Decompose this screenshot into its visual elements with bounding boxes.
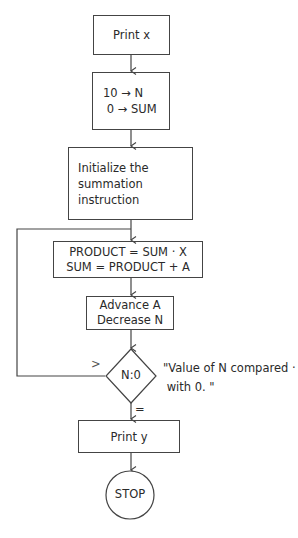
node-text: Advance A — [99, 298, 160, 313]
stop-label: STOP — [106, 487, 154, 501]
annotation-line-2: with 0. " — [163, 379, 215, 396]
node-text: SUM = PRODUCT + A — [66, 260, 190, 275]
node-init-summation: Initialize the summation instruction — [68, 147, 193, 220]
annotation-line-1: "Value of N compared · — [163, 360, 296, 377]
branch-label-equal: = — [135, 401, 145, 418]
node-print-x: Print x — [93, 15, 170, 55]
node-text: PRODUCT = SUM · X — [69, 245, 187, 260]
node-text: Print y — [111, 429, 148, 445]
node-text: 0 → SUM — [103, 101, 157, 117]
node-text: Print x — [113, 27, 150, 43]
node-init-counters: 10 → N 0 → SUM — [92, 72, 170, 130]
node-text: instruction — [78, 192, 139, 208]
node-text: Decrease N — [97, 313, 163, 328]
node-text: 10 → N — [103, 85, 143, 101]
decision-label: N:0 — [106, 368, 156, 382]
branch-label-greater: > — [91, 356, 101, 373]
node-advance: Advance A Decrease N — [86, 296, 174, 330]
node-text: Initialize the — [78, 160, 149, 176]
node-text: summation — [78, 176, 143, 192]
node-print-y: Print y — [78, 420, 180, 453]
node-compute: PRODUCT = SUM · X SUM = PRODUCT + A — [53, 241, 203, 278]
